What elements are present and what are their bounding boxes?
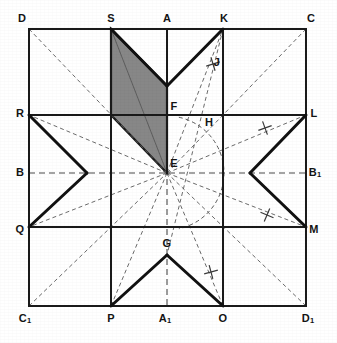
point-label-M: M — [309, 224, 318, 235]
geometry-figure: DSAKCRLFHJBEB1QMGC1PA1OD1 — [0, 0, 337, 343]
point-label-R: R — [16, 108, 24, 119]
point-label-subscript: 1 — [310, 316, 314, 325]
diagonal-C1-E — [29, 173, 167, 306]
inner-left-Q — [29, 173, 87, 227]
point-label-G: G — [163, 238, 172, 249]
point-label-C1: C1 — [19, 313, 32, 324]
ray-E-L — [167, 115, 306, 173]
L-inner-right-top — [250, 115, 306, 173]
point-label-J: J — [214, 57, 220, 68]
point-label-B1: B1 — [309, 167, 322, 178]
point-label-K: K — [220, 13, 228, 24]
point-label-A1: A1 — [159, 313, 172, 324]
tick-KL — [258, 121, 271, 134]
inner-right-M — [250, 173, 306, 227]
tick-marks-group — [204, 57, 273, 279]
point-label-subscript: 1 — [167, 316, 171, 325]
point-label-L: L — [311, 108, 318, 119]
tick-stroke — [258, 121, 271, 134]
diagonal-C-E — [167, 29, 306, 173]
ray-E-O — [167, 173, 223, 306]
point-label-P: P — [107, 313, 115, 324]
ray-E-P — [111, 173, 167, 306]
diagonal-D1-E — [167, 173, 306, 306]
point-label-O: O — [219, 313, 228, 324]
point-label-Q: Q — [16, 224, 25, 235]
point-label-S: S — [107, 13, 115, 24]
point-label-H: H — [205, 117, 213, 128]
point-label-F: F — [171, 101, 178, 112]
point-label-subscript: 1 — [317, 170, 321, 179]
G-P — [111, 255, 167, 306]
figure-canvas — [0, 0, 337, 343]
R-inner-left — [29, 115, 87, 173]
point-label-D1: D1 — [302, 313, 315, 324]
point-label-E: E — [170, 158, 178, 169]
point-label-A: A — [163, 13, 171, 24]
tick-stroke — [260, 208, 273, 221]
point-label-subscript: 1 — [27, 316, 31, 325]
ray-E-Q — [29, 173, 167, 227]
ray-E-M — [167, 173, 306, 227]
O-G — [167, 255, 223, 306]
tick-LM — [260, 208, 273, 221]
point-label-B: B — [16, 167, 24, 178]
point-label-C: C — [307, 13, 315, 24]
point-label-D: D — [18, 13, 26, 24]
